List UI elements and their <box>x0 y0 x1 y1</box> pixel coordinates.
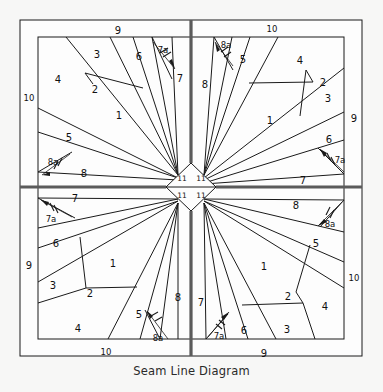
piece-label-top-right-3: 3 <box>325 93 331 104</box>
border-label-strip-top-left: 9 <box>115 25 121 36</box>
piece-label-top-left-7: 7 <box>177 73 183 84</box>
piece-label-bottom-left-4: 4 <box>75 323 81 334</box>
piece-label-bottom-left-2: 2 <box>87 288 93 299</box>
piece-label-bottom-right-7: 7 <box>198 297 204 308</box>
border-label-strip-bottom-right: 9 <box>261 348 267 359</box>
piece-label-bottom-right-4: 4 <box>322 301 328 312</box>
center-piece-label-c-br: 11 <box>196 191 206 200</box>
piece-label-top-left-8a: 8a <box>48 157 59 167</box>
piece-label-top-left-6: 6 <box>136 51 142 62</box>
piece-label-top-left-3: 3 <box>94 49 100 60</box>
piece-label-top-left-8: 8 <box>81 168 87 179</box>
piece-label-top-left-2: 2 <box>92 84 98 95</box>
border-label-strip-bottom-left: 10 <box>101 347 112 357</box>
piece-label-bottom-right-3: 3 <box>284 324 290 335</box>
seam-diagram-canvas: 367a742158a88a85423167a777a6321458a888a5… <box>0 0 383 392</box>
piece-label-bottom-left-7: 7 <box>72 193 78 204</box>
piece-label-bottom-right-8a: 8a <box>325 219 336 229</box>
piece-label-bottom-left-6: 6 <box>53 238 59 249</box>
piece-label-bottom-left-7a: 7a <box>46 214 57 224</box>
border-label-strip-left-bottom: 9 <box>26 260 32 271</box>
center-piece-label-c-bl: 11 <box>177 191 187 200</box>
piece-label-bottom-left-3: 3 <box>50 280 56 291</box>
piece-label-top-left-1: 1 <box>116 110 122 121</box>
piece-label-bottom-right-2: 2 <box>285 291 291 302</box>
piece-label-bottom-left-8: 8 <box>175 292 181 303</box>
piece-label-top-right-8: 8 <box>202 79 208 90</box>
piece-label-top-left-4: 4 <box>55 74 61 85</box>
piece-label-bottom-right-5: 5 <box>313 238 319 249</box>
piece-label-top-right-1: 1 <box>267 115 273 126</box>
piece-label-top-right-7: 7 <box>300 175 306 186</box>
piece-label-bottom-left-5: 5 <box>136 309 142 320</box>
piece-label-bottom-right-6: 6 <box>241 325 247 336</box>
piece-label-top-right-6: 6 <box>326 134 332 145</box>
piece-label-bottom-right-7a: 7a <box>214 331 225 341</box>
center-piece-label-c-tl: 11 <box>177 174 187 183</box>
piece-label-top-left-5: 5 <box>66 132 72 143</box>
piece-label-top-right-4: 4 <box>297 55 303 66</box>
piece-label-top-left-7a: 7a <box>158 45 169 55</box>
piece-label-top-right-2: 2 <box>320 77 326 88</box>
seam-line-diagram: 367a742158a88a85423167a777a6321458a888a5… <box>0 0 383 392</box>
piece-label-top-right-5: 5 <box>240 54 246 65</box>
border-label-strip-right-top: 9 <box>351 113 357 124</box>
piece-label-bottom-right-1: 1 <box>261 261 267 272</box>
center-piece-label-c-tr: 11 <box>196 174 206 183</box>
border-label-strip-left-top: 10 <box>24 93 35 103</box>
piece-label-top-right-8a: 8a <box>221 40 232 50</box>
border-label-strip-right-bottom: 10 <box>349 273 360 283</box>
piece-label-bottom-left-8a: 8a <box>153 333 164 343</box>
piece-label-top-right-7a: 7a <box>335 155 346 165</box>
piece-label-bottom-right-8: 8 <box>293 200 299 211</box>
piece-label-bottom-left-1: 1 <box>110 258 116 269</box>
diagram-caption: Seam Line Diagram <box>0 364 383 378</box>
border-label-strip-top-right: 10 <box>267 24 278 34</box>
